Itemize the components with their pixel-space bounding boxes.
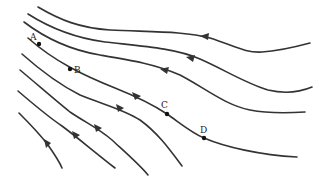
point-d-label: D [200,126,207,135]
field-line-2 [28,14,312,92]
field-line-5 [22,54,182,166]
field-line-1 [38,7,310,52]
point-a-dot [37,42,41,46]
point-b-dot [68,67,72,71]
point-c-dot [165,112,169,116]
point-b-label: B [74,66,81,75]
arrow-icon [200,33,209,40]
point-d-dot [202,136,206,140]
point-a-label: A [30,33,37,42]
arrow-icon [186,55,195,62]
field-line-4 [28,38,297,157]
point-c-label: C [161,101,168,110]
field-line-6 [20,70,148,175]
field-line-diagram [0,0,326,180]
